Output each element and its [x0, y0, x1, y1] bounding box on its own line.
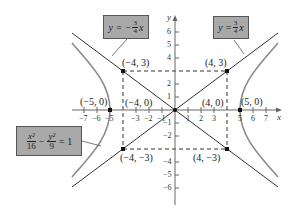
eq-rhs: = 1: [59, 136, 72, 147]
numerator: y²: [47, 132, 56, 142]
point-label: (−4, 3): [122, 58, 149, 68]
y-axis-label: y: [167, 13, 171, 22]
denominator: 16: [27, 142, 36, 151]
y-tick-label: −1: [163, 119, 172, 127]
hyperbola-equation-label: x²16 − y²9 = 1: [16, 126, 82, 156]
y-tick-label: 2: [167, 80, 171, 88]
y-tick-label: −4: [163, 158, 172, 166]
point-label: (−4, −3): [120, 153, 153, 163]
x-tick-label: −5: [105, 115, 114, 123]
asymptote-negative-label: y = − 34 x: [103, 15, 149, 39]
x-tick-label: 3: [212, 115, 216, 123]
leader-pos: [234, 40, 244, 54]
denominator: 4: [234, 28, 238, 35]
fraction: 34: [132, 20, 138, 35]
point-label: (−5, 0): [80, 97, 107, 107]
y-tick-label: −2: [163, 132, 172, 140]
x-tick-label: 2: [199, 115, 203, 123]
x-tick-label: −7: [79, 115, 88, 123]
numerator: x²: [27, 132, 36, 142]
y-tick-label: 6: [167, 28, 171, 36]
x-tick-label: 1: [186, 115, 190, 123]
denominator: 9: [49, 142, 54, 151]
x-axis-label: x: [277, 113, 281, 122]
eq-lhs: y =: [218, 22, 232, 33]
point-label: (4, −3): [193, 153, 220, 163]
y-tick-label: 4: [167, 54, 171, 62]
y-tick-label: −6: [163, 184, 172, 192]
leader-neg: [112, 39, 127, 56]
x-tick-label: −2: [144, 115, 153, 123]
x-tick-label: 5: [238, 115, 242, 123]
fraction: x²16: [27, 132, 36, 151]
y-tick-label: 1: [167, 93, 171, 101]
y-tick-label: −5: [163, 171, 172, 179]
point-label: (4, 0): [202, 98, 224, 108]
point-label: (−4, 0): [125, 98, 152, 108]
point-label: (4, 3): [205, 58, 227, 68]
fraction: 34: [233, 20, 239, 35]
y-tick-label: 5: [167, 41, 171, 49]
x-tick-label: 6: [251, 115, 255, 123]
leader-eq: [82, 141, 101, 146]
minus-sign: −: [39, 136, 45, 147]
eq-var: x: [139, 22, 143, 33]
eq-var: x: [239, 22, 243, 33]
denominator: 4: [133, 28, 137, 35]
asymptote-positive-label: y = 34 x: [213, 16, 249, 39]
x-tick-label: −3: [131, 115, 140, 123]
eq-lhs: y = −: [109, 22, 132, 33]
x-tick-label: 7: [264, 115, 268, 123]
x-tick-label: −6: [92, 115, 101, 123]
fraction: y²9: [47, 132, 56, 151]
point-label: (5, 0): [241, 97, 263, 107]
